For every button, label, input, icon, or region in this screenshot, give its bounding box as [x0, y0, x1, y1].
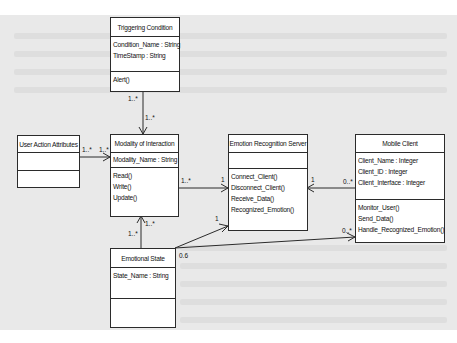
- class-attributes: [229, 153, 307, 169]
- class-emotional-state[interactable]: Emotional State State_Name : String: [110, 248, 176, 328]
- class-operations: Read() Write() Update(): [111, 168, 178, 203]
- attribute: Condition_Name : String: [113, 39, 177, 50]
- attribute: State_Name : String: [113, 270, 173, 281]
- class-attributes: Condition_Name : String TimeStamp : Stri…: [111, 37, 179, 72]
- operation: Connect_Client(): [231, 171, 305, 182]
- class-name: Mobile Client: [356, 135, 444, 153]
- class-emotion-recognition-server[interactable]: Emotion Recognition Server Connect_Clien…: [228, 134, 308, 231]
- class-name: Emotion Recognition Server: [229, 135, 307, 153]
- attribute: TimeStamp : String: [113, 50, 177, 61]
- class-operations: Connect_Client() Disconnect_Client() Rec…: [229, 169, 307, 215]
- class-operations: [18, 171, 79, 173]
- attribute: Modality_Name : String: [113, 155, 176, 165]
- attribute: Client_Interface : Integer: [358, 177, 442, 188]
- class-name: User Action Attributes: [18, 136, 79, 153]
- multiplicity-label: 1: [221, 176, 225, 183]
- multiplicity-label: 0.6: [179, 252, 188, 259]
- class-attributes: [18, 153, 79, 171]
- operation: Disconnect_Client(): [231, 182, 305, 193]
- multiplicity-label: 1..*: [128, 95, 138, 102]
- multiplicity-label: 0..*: [343, 178, 353, 185]
- class-attributes: Client_Name : Integer Client_ID : Intege…: [356, 153, 444, 200]
- multiplicity-label: 1..*: [128, 230, 138, 237]
- class-attributes: Modality_Name : String: [111, 153, 178, 168]
- multiplicity-label: 1..*: [145, 220, 155, 227]
- multiplicity-label: 1: [311, 176, 315, 183]
- class-name: Modality of Interaction: [111, 135, 178, 153]
- operation: Send_Data(): [358, 213, 442, 224]
- operation: Write(): [113, 181, 176, 192]
- operation: Receive_Data(): [231, 193, 305, 204]
- attribute: Client_Name : Integer: [358, 155, 442, 166]
- operation: Monitor_User(): [358, 202, 442, 213]
- class-name: Triggering Condition: [111, 18, 179, 37]
- multiplicity-label: 1..*: [82, 146, 92, 153]
- class-mobile-client[interactable]: Mobile Client Client_Name : Integer Clie…: [355, 134, 445, 243]
- class-modality-of-interaction[interactable]: Modality of Interaction Modality_Name : …: [110, 134, 179, 217]
- class-attributes: State_Name : String: [111, 268, 175, 299]
- association-emotional-server: [175, 226, 228, 248]
- association-emotional-mobile: [175, 237, 355, 248]
- class-triggering-condition[interactable]: Triggering Condition Condition_Name : St…: [110, 17, 180, 92]
- operation: Handle_Recognized_Emotion(): [358, 224, 442, 235]
- multiplicity-label: 1: [215, 215, 219, 222]
- operation: Alert(): [113, 74, 177, 85]
- class-user-action-attributes[interactable]: User Action Attributes: [17, 135, 80, 188]
- operation: Update(): [113, 192, 176, 203]
- class-operations: [111, 299, 175, 301]
- multiplicity-label: 1..*: [181, 177, 191, 184]
- attribute: Client_ID : Integer: [358, 166, 442, 177]
- class-operations: Alert(): [111, 72, 179, 85]
- multiplicity-label: 1..*: [99, 146, 109, 153]
- operation: Read(): [113, 170, 176, 181]
- class-name: Emotional State: [111, 249, 175, 268]
- operation: Recognized_Emotion(): [231, 204, 305, 215]
- class-operations: Monitor_User() Send_Data() Handle_Recogn…: [356, 200, 444, 235]
- multiplicity-label: 0..*: [342, 227, 352, 234]
- multiplicity-label: 1..*: [145, 114, 155, 121]
